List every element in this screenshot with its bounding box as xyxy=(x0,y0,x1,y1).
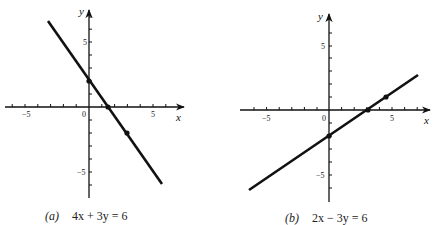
caption-a: (a) 4x + 3y = 6 xyxy=(45,209,128,223)
point-4.5-1 xyxy=(383,94,388,99)
point-1.5-0 xyxy=(105,104,110,109)
point-0-neg2 xyxy=(326,133,331,138)
panel-b: −5 0 5 5 −5 y x (b) 2x − 3y = 6 xyxy=(240,10,430,225)
y-axis-label-b: y xyxy=(317,10,323,22)
caption-equation-b: 2x − 3y = 6 xyxy=(312,211,368,225)
y-tick-label-neg5-b: −5 xyxy=(316,171,325,180)
x-tick-label-neg5-b: −5 xyxy=(262,114,271,123)
caption-label-b: (b) xyxy=(285,211,299,225)
panel-a: −5 0 5 5 −5 y x (a) 4x + 3y = 6 xyxy=(5,5,184,223)
graph-line-b xyxy=(249,75,418,190)
x-tick-label-5-a: 5 xyxy=(151,110,155,119)
origin-label-b: 0 xyxy=(322,114,326,123)
y-tick-label-5-a: 5 xyxy=(83,38,87,47)
y-tick-label-neg5-a: −5 xyxy=(77,168,86,177)
y-axis-label-a: y xyxy=(78,5,84,17)
figure: −5 0 5 5 −5 y x (a) 4x + 3y = 6 xyxy=(0,0,436,225)
x-tick-label-5-b: 5 xyxy=(390,114,394,123)
x-tick-label-neg5-a: −5 xyxy=(22,110,31,119)
graph-line-a xyxy=(48,21,162,184)
origin-label-a: 0 xyxy=(82,110,86,119)
caption-equation-a: 4x + 3y = 6 xyxy=(72,209,128,223)
point-3-0 xyxy=(365,107,370,112)
point-3-neg2 xyxy=(124,130,129,135)
x-axis-label-a: x xyxy=(175,111,181,123)
point-0-2 xyxy=(86,78,91,83)
y-tick-label-5-b: 5 xyxy=(321,42,325,51)
caption-label-a: (a) xyxy=(45,209,59,223)
caption-b: (b) 2x − 3y = 6 xyxy=(285,211,368,225)
x-axis-label-b: x xyxy=(423,114,429,126)
